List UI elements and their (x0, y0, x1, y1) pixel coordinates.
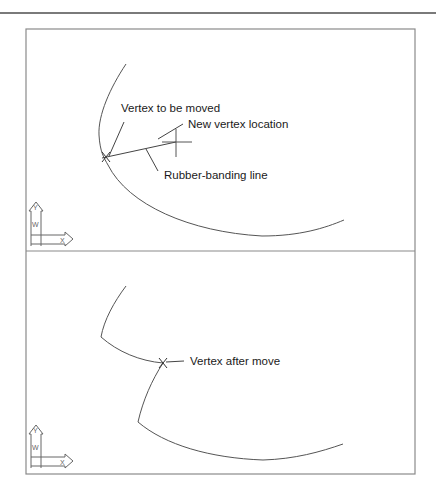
ucs-x-label: X (60, 459, 65, 466)
curve-segment-4 (138, 422, 343, 460)
label-rubber-banding-line: Rubber-banding line (164, 169, 268, 181)
polyline-edit-figure: Vertex to be moved New vertex location R… (0, 0, 436, 504)
leader-rubber-band (146, 149, 158, 171)
label-vertex-to-move: Vertex to be moved (121, 102, 220, 114)
ucs-y-label: Y (33, 427, 38, 434)
ucs-w-label: W (32, 221, 39, 228)
curve-segment-2 (101, 337, 163, 363)
original-curve (99, 64, 344, 236)
crosshair-cursor-icon (162, 129, 192, 157)
ucs-y-label: Y (33, 204, 38, 211)
curve-segment-3 (138, 363, 163, 422)
label-new-vertex-location: New vertex location (188, 118, 288, 130)
panel-after: Vertex after move Y W X (29, 286, 343, 468)
curve-segment-1 (101, 286, 126, 337)
rubber-banding-line (102, 142, 176, 158)
label-vertex-after-move: Vertex after move (190, 355, 280, 367)
ucs-x-label: X (60, 237, 65, 244)
leader-vertex-to-move (109, 122, 124, 156)
leader-new-location (158, 124, 183, 139)
ucs-w-label: W (32, 444, 39, 451)
leader-vertex-after-move (166, 361, 184, 362)
panel-before: Vertex to be moved New vertex location R… (29, 64, 344, 246)
